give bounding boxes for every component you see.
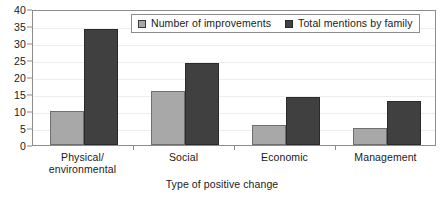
bar[interactable] — [185, 63, 219, 145]
y-tick-mark — [27, 112, 32, 113]
y-tick-mark — [27, 146, 32, 147]
x-tick-label: Social — [133, 151, 234, 163]
y-tick-label: 10 — [14, 107, 26, 118]
y-tick-mark — [27, 78, 32, 79]
x-tick-mark — [335, 146, 336, 150]
bar[interactable] — [84, 29, 118, 145]
x-tick-label: Management — [335, 151, 436, 163]
y-tick-mark — [27, 129, 32, 130]
x-axis-title: Type of positive change — [0, 178, 444, 190]
legend-entry-1[interactable]: Total mentions by family — [285, 18, 412, 29]
legend-swatch-icon-0 — [138, 20, 146, 28]
bar[interactable] — [387, 101, 421, 145]
x-tick-label: Physical/ environmental — [32, 151, 133, 175]
bar[interactable] — [286, 97, 320, 145]
y-tick-mark — [27, 61, 32, 62]
bar[interactable] — [151, 91, 185, 145]
y-tick-label: 25 — [14, 56, 26, 67]
chart-legend: Number of improvements Total mentions by… — [131, 14, 420, 33]
legend-entry-0[interactable]: Number of improvements — [138, 18, 271, 29]
y-tick-label: 5 — [20, 124, 26, 135]
x-tick-mark — [234, 146, 235, 150]
y-tick-label: 30 — [14, 39, 26, 50]
bar-chart: 0510152025303540 Type of positive change… — [0, 0, 444, 199]
legend-label-0: Number of improvements — [151, 18, 271, 29]
y-tick-label: 0 — [20, 141, 26, 152]
y-tick-label: 20 — [14, 73, 26, 84]
bar[interactable] — [252, 125, 286, 145]
bar[interactable] — [50, 111, 84, 145]
bar[interactable] — [353, 128, 387, 145]
bar-group — [33, 11, 134, 145]
y-tick-mark — [27, 27, 32, 28]
y-tick-label: 15 — [14, 90, 26, 101]
y-tick-mark — [27, 95, 32, 96]
x-tick-mark — [133, 146, 134, 150]
x-tick-label: Economic — [234, 151, 335, 163]
y-tick-mark — [27, 10, 32, 11]
y-tick-mark — [27, 44, 32, 45]
y-axis: 0510152025303540 — [0, 10, 26, 146]
y-tick-label: 40 — [14, 5, 26, 16]
legend-label-1: Total mentions by family — [298, 18, 412, 29]
legend-swatch-icon-1 — [285, 20, 293, 28]
y-tick-label: 35 — [14, 22, 26, 33]
